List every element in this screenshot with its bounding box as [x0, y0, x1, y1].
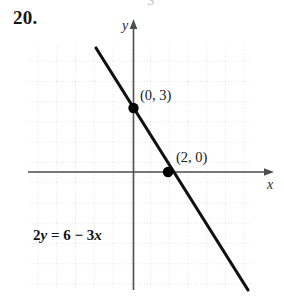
equation-equals: =: [51, 227, 60, 243]
data-point-y-intercept: [128, 103, 138, 113]
x-axis-label: x: [267, 178, 273, 192]
equation-var-x: x: [94, 227, 102, 243]
y-axis-label: y: [122, 19, 128, 33]
coordinate-plot: [0, 0, 284, 302]
equation-minus: −: [74, 227, 83, 243]
equation-label: 2y = 6 − 3x: [33, 228, 102, 243]
data-point-x-intercept: [163, 167, 173, 177]
figure-container: 3 20.: [0, 0, 284, 302]
point-label-y-intercept: (0, 3): [140, 88, 171, 103]
equation-constant: 6: [63, 227, 71, 243]
grid-lines: [28, 47, 253, 290]
equation-coef-y: 2: [33, 227, 41, 243]
equation-var-y: y: [41, 227, 48, 243]
point-label-x-intercept: (2, 0): [176, 150, 207, 165]
